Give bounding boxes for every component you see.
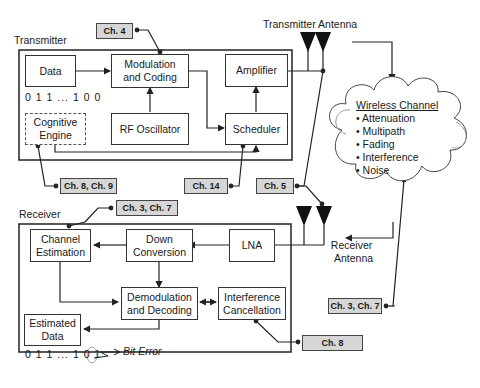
estimated-data-block: Estimated Data bbox=[24, 314, 81, 346]
cognitive-engine-block: Cognitive Engine bbox=[25, 113, 86, 145]
scheduler-block: Scheduler bbox=[225, 113, 288, 145]
demodulation-line2: and Decoding bbox=[127, 304, 192, 317]
chapter-tag-ch3-ch7-channel: Ch. 3, Ch. 7 bbox=[328, 298, 382, 314]
chapter-tag-ch14: Ch. 14 bbox=[184, 178, 228, 194]
down-conversion-line1: Down bbox=[146, 233, 173, 246]
data-block: Data bbox=[25, 55, 76, 87]
scheduler-label: Scheduler bbox=[233, 123, 280, 136]
cognitive-label-line2: Engine bbox=[39, 129, 72, 142]
receiver-antenna-label-line2: Antenna bbox=[330, 252, 373, 265]
receiver-antenna-label: Receiver Antenna bbox=[330, 239, 373, 265]
estimated-data-line2: Data bbox=[41, 330, 63, 343]
receiver-antenna-icon bbox=[296, 206, 332, 226]
channel-item-fading: Fading bbox=[356, 138, 438, 151]
wireless-channel-text: Wireless Channel Attenuation Multipath F… bbox=[356, 99, 438, 177]
chapter-tag-ch3-ch7-receiver: Ch. 3, Ch. 7 bbox=[116, 200, 178, 216]
data-block-label: Data bbox=[39, 65, 61, 78]
receiver-label: Receiver bbox=[19, 208, 60, 221]
error-bit: 1 bbox=[94, 348, 101, 360]
receiver-antenna-label-line1: Receiver bbox=[330, 239, 373, 252]
chapter-tag-ch8-ch9: Ch. 8, Ch. 9 bbox=[60, 178, 117, 194]
modulation-label-line2: and Coding bbox=[123, 71, 177, 84]
down-conversion-line2: Conversion bbox=[133, 246, 186, 259]
channel-item-interference: Interference bbox=[356, 151, 438, 164]
chapter-tag-ch5: Ch. 5 bbox=[256, 178, 294, 194]
lna-block: LNA bbox=[229, 229, 275, 262]
demodulation-decoding-block: Demodulation and Decoding bbox=[121, 287, 198, 320]
receiver-bits: 0 1 1 ... 1 0 1 bbox=[25, 348, 101, 360]
chapter-tag-ch8: Ch. 8 bbox=[302, 335, 363, 351]
chapter-tag-ch4: Ch. 4 bbox=[96, 23, 133, 39]
bit-error-label: Bit Error bbox=[123, 345, 162, 357]
interference-cancellation-line1: Interference bbox=[224, 291, 280, 304]
channel-estimation-block: Channel Estimation bbox=[30, 229, 91, 262]
channel-estimation-line1: Channel bbox=[41, 233, 80, 246]
lna-label: LNA bbox=[242, 239, 262, 252]
channel-item-multipath: Multipath bbox=[356, 125, 438, 138]
transmitter-bits: 0 1 1 ... 1 0 0 bbox=[25, 91, 101, 103]
channel-impairment-list: Attenuation Multipath Fading Interferenc… bbox=[356, 112, 438, 177]
estimated-data-line1: Estimated bbox=[29, 317, 76, 330]
down-conversion-block: Down Conversion bbox=[126, 229, 193, 262]
amplifier-label: Amplifier bbox=[236, 64, 277, 77]
transmitter-antenna-label: Transmitter Antenna bbox=[263, 18, 357, 31]
channel-estimation-line2: Estimation bbox=[36, 246, 85, 259]
interference-cancellation-block: Interference Cancellation bbox=[218, 287, 286, 320]
wireless-channel-title: Wireless Channel bbox=[356, 99, 438, 112]
transmitter-antenna-icon bbox=[300, 32, 331, 52]
transmitter-label: Transmitter bbox=[14, 34, 67, 47]
channel-item-attenuation: Attenuation bbox=[356, 112, 438, 125]
rf-oscillator-block: RF Oscillator bbox=[111, 113, 189, 145]
modulation-label-line1: Modulation bbox=[124, 58, 175, 71]
amplifier-block: Amplifier bbox=[225, 54, 288, 87]
cognitive-label-line1: Cognitive bbox=[34, 116, 78, 129]
rf-oscillator-label: RF Oscillator bbox=[120, 123, 181, 136]
interference-cancellation-line2: Cancellation bbox=[223, 304, 281, 317]
modulation-coding-block: Modulation and Coding bbox=[111, 54, 189, 88]
channel-item-noise: Noise bbox=[356, 164, 438, 177]
demodulation-line1: Demodulation bbox=[127, 291, 192, 304]
receiver-bits-prefix: 0 1 1 ... 1 0 bbox=[25, 348, 94, 360]
